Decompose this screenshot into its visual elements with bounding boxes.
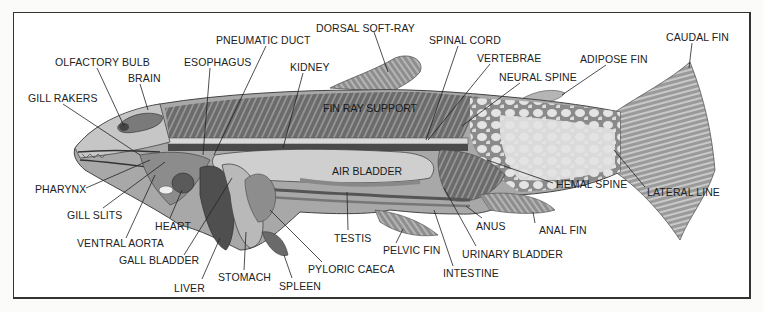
vertebral-column	[168, 138, 468, 144]
leader-line-spleen	[284, 255, 292, 278]
leader-line-anal-fin	[533, 212, 535, 223]
spleen-shape	[262, 232, 288, 256]
label-olfactory-bulb: OLFACTORY BULB	[55, 56, 150, 68]
label-adipose-fin: ADIPOSE FIN	[580, 53, 648, 65]
label-anal-fin: ANAL FIN	[539, 224, 587, 236]
pelvic-fin-shape	[375, 210, 438, 236]
label-anus: ANUS	[476, 220, 506, 232]
label-testis: TESTIS	[334, 232, 371, 244]
label-caudal-fin: CAUDAL FIN	[666, 31, 729, 43]
label-hemal-spine: HEMAL SPINE	[556, 178, 627, 190]
label-pelvic-fin: PELVIC FIN	[383, 244, 440, 256]
label-brain: BRAIN	[128, 72, 161, 84]
label-intestine: INTESTINE	[443, 267, 499, 279]
leader-line-intestine	[434, 210, 453, 266]
label-neural-spine: NEURAL SPINE	[499, 71, 577, 83]
label-urinary-bladder: URINARY BLADDER	[462, 248, 563, 260]
label-ventral-aorta: VENTRAL AORTA	[77, 237, 164, 249]
label-vertebrae: VERTEBRAE	[477, 52, 541, 64]
heart-shape	[172, 173, 194, 193]
label-esophagus: ESOPHAGUS	[184, 56, 251, 68]
label-pyloric-caeca: PYLORIC CAECA	[308, 263, 395, 275]
label-pharynx: PHARYNX	[35, 183, 86, 195]
label-gill-slits: GILL SLITS	[67, 209, 122, 221]
label-fin-ray-support: FIN RAY SUPPORT	[323, 102, 417, 114]
label-gill-rakers: GILL RAKERS	[28, 92, 98, 104]
label-stomach: STOMACH	[218, 271, 271, 283]
label-pneumatic-duct: PNEUMATIC DUCT	[216, 34, 311, 46]
leader-line-olfactory-bulb	[97, 68, 124, 126]
label-heart: HEART	[155, 220, 191, 232]
anal-fin-shape	[480, 193, 555, 213]
leader-line-brain	[140, 84, 148, 110]
label-gall-bladder: GALL BLADDER	[119, 254, 199, 266]
label-dorsal-soft-ray: DORSAL SOFT-RAY	[316, 22, 415, 34]
label-spleen: SPLEEN	[279, 280, 321, 292]
label-air-bladder: AIR BLADDER	[332, 165, 402, 177]
label-liver: LIVER	[174, 282, 205, 294]
dorsal-fin-shape	[330, 56, 421, 92]
label-kidney: KIDNEY	[290, 61, 330, 73]
label-spinal-cord: SPINAL CORD	[429, 34, 501, 46]
label-lateral-line: LATERAL LINE	[647, 186, 720, 198]
caudal-fin-shape	[615, 62, 715, 240]
